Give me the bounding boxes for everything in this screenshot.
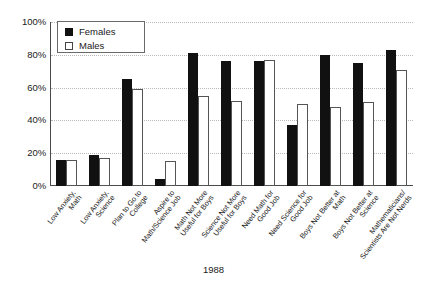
bar-females (353, 63, 364, 186)
bar-females (386, 50, 397, 186)
y-tick-label: 0% (2, 181, 46, 191)
bar-group (221, 22, 243, 186)
y-tick-label: 40% (2, 115, 46, 125)
bar-males (297, 104, 308, 186)
bar-females (122, 79, 133, 186)
legend-item-males: Males (65, 39, 144, 52)
bar-group (254, 22, 276, 186)
bar-females (56, 160, 67, 186)
bar-females (89, 155, 100, 186)
legend-label-males: Males (79, 41, 104, 51)
bar-males (132, 89, 143, 186)
bar-females (188, 53, 199, 186)
y-tick-label: 100% (2, 17, 46, 27)
legend-item-females: Females (65, 25, 144, 38)
bar-group (353, 22, 375, 186)
bar-males (99, 158, 110, 186)
x-category-label: Low Anxiety,Science (79, 189, 117, 231)
bar-group (287, 22, 309, 186)
bar-males (165, 161, 176, 186)
bar-group (155, 22, 177, 186)
bar-males (198, 96, 209, 186)
filled-square-icon (65, 28, 73, 36)
bar-males (66, 160, 77, 186)
y-tick-label: 60% (2, 83, 46, 93)
bar-females (287, 125, 298, 186)
bar-males (396, 70, 407, 186)
bar-chart-figure: 0%20%40%60%80%100% Females Males Low Anx… (0, 0, 427, 291)
x-axis-category-labels: Low Anxiety,MathLow Anxiety,SciencePlan … (50, 186, 413, 266)
bar-males (363, 102, 374, 186)
bar-males (330, 107, 341, 186)
bar-group (188, 22, 210, 186)
chart-legend: Females Males (57, 21, 145, 53)
y-tick-label: 20% (2, 148, 46, 158)
bar-females (320, 55, 331, 186)
bar-group (320, 22, 342, 186)
y-tick-label: 80% (2, 50, 46, 60)
chart-caption: 1988 (0, 264, 427, 275)
bar-males (231, 101, 242, 186)
bar-females (221, 61, 232, 186)
bar-group (386, 22, 408, 186)
x-category-label: Low Anxiety,Math (46, 189, 84, 231)
bar-females (254, 61, 265, 186)
legend-label-females: Females (79, 27, 115, 37)
bar-males (264, 60, 275, 186)
empty-square-icon (65, 42, 73, 50)
